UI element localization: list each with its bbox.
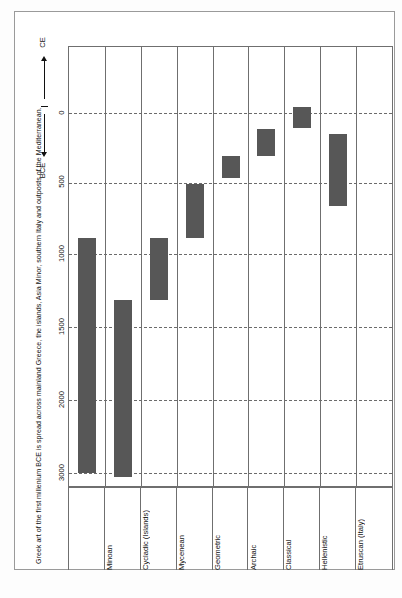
category-cell-geometric: Geometric	[177, 488, 213, 570]
category-cell-hellenistic: Hellenistic	[284, 488, 320, 570]
chart-plot-area	[68, 46, 393, 487]
category-cell-cycladic: Cycladic (Islands)	[105, 488, 141, 570]
era-label-ce: CE	[24, 38, 60, 48]
bar-minoan	[78, 238, 96, 473]
category-cell-etruscan: Etruscan (Italy)	[320, 488, 356, 570]
bar-classical	[257, 129, 275, 156]
category-cell-classical: Classical	[248, 488, 284, 570]
axis-line-lower	[44, 114, 45, 152]
category-cell-archaic: Archaic	[213, 488, 249, 570]
category-label	[356, 488, 402, 570]
category-cell-mycenean: Mycenean	[141, 488, 177, 570]
axis-line-upper	[44, 61, 45, 99]
era-label-bce: BCE	[24, 166, 60, 176]
bar-etruscan	[329, 134, 347, 206]
gridline-0	[69, 113, 392, 114]
era-zero-tick	[41, 106, 48, 107]
category-cell-minoan: Minoan	[69, 488, 105, 570]
bar-archaic	[222, 156, 240, 178]
category-cell-empty	[356, 488, 392, 570]
bar-hellenistic	[293, 107, 311, 128]
bar-mycenean	[150, 238, 168, 300]
category-label-row: Minoan Cycladic (Islands) Mycenean Geome…	[68, 488, 393, 570]
gridline-1000	[69, 254, 392, 255]
bar-cycladic	[114, 300, 132, 477]
bar-geometric	[186, 184, 204, 238]
figure-page: Greek art of the first millenium BCE is …	[0, 0, 402, 598]
